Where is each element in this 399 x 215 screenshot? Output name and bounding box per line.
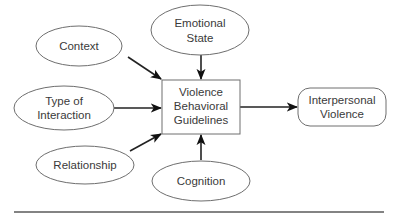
node-cognition-label: Cognition (177, 175, 226, 187)
node-emotional-state-label-line1: Emotional (174, 17, 225, 29)
node-relationship: Relationship (36, 146, 134, 184)
node-type-of-interaction: Type of Interaction (14, 86, 114, 130)
node-interpersonal-violence-label-line2: Violence (320, 108, 364, 120)
edge-context-to-guidelines (128, 57, 161, 79)
node-relationship-label: Relationship (53, 159, 116, 171)
node-guidelines-label-line2: Behavioral (174, 100, 228, 112)
edge-relationship-to-guidelines (130, 134, 161, 151)
node-guidelines-label-line1: Violence (179, 86, 223, 98)
node-interpersonal-violence: Interpersonal Violence (298, 88, 386, 126)
node-emotional-state: Emotional State (151, 5, 249, 55)
node-violence-behavioral-guidelines: Violence Behavioral Guidelines (162, 80, 240, 134)
node-context: Context (36, 26, 122, 66)
node-type-of-interaction-label-line2: Interaction (37, 109, 91, 121)
diagram: Context Emotional State Type of Interact… (0, 0, 399, 215)
node-interpersonal-violence-label-line1: Interpersonal (308, 94, 375, 106)
node-emotional-state-label-line2: State (187, 32, 214, 44)
node-cognition: Cognition (152, 161, 250, 201)
node-guidelines-label-line3: Guidelines (174, 114, 229, 126)
node-type-of-interaction-label-line1: Type of (45, 95, 84, 107)
node-context-label: Context (59, 40, 99, 52)
